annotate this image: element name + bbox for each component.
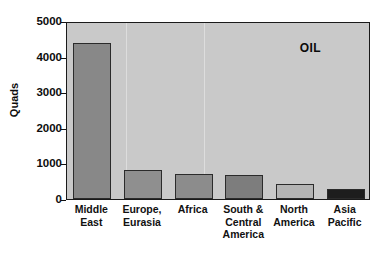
plot-area: OIL — [66, 22, 370, 200]
bar — [73, 43, 111, 199]
x-axis-category-label: Asia Pacific — [313, 203, 376, 228]
y-tick-label-2000: 2000 — [22, 123, 62, 135]
y-tick-label-4000: 4000 — [22, 52, 62, 64]
bar — [175, 174, 213, 199]
x-axis-category-labels: Middle EastEurope, EurasiaAfricaSouth & … — [66, 203, 370, 259]
bar — [124, 170, 162, 200]
bar-chart-figure: Quads 500040003000200010000 OIL Middle E… — [0, 0, 388, 259]
scan-artifact-streak — [204, 23, 205, 199]
y-axis-tick-labels: 500040003000200010000 — [18, 0, 62, 259]
y-tick-label-5000: 5000 — [22, 16, 62, 28]
bar — [276, 184, 314, 199]
bar — [225, 175, 263, 199]
y-tick-label-0: 0 — [22, 194, 62, 206]
bar — [327, 189, 365, 199]
y-tick-label-1000: 1000 — [22, 158, 62, 170]
oil-annotation-label: OIL — [300, 41, 321, 55]
y-tick-label-3000: 3000 — [22, 87, 62, 99]
y-tick-mark — [61, 200, 66, 201]
